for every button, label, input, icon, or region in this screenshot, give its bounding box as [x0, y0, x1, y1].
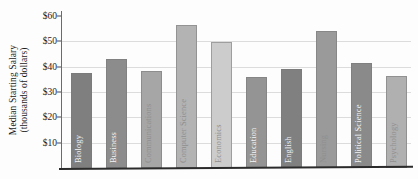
- bar-category-label: Political Science: [354, 104, 363, 163]
- bar-chart-figure: Median Starting Salary (thousands of dol…: [0, 0, 418, 179]
- y-axis-tick-label: $20: [31, 112, 57, 122]
- bar-category-label: Biology: [74, 135, 83, 163]
- bar-category-label: Computer Science: [179, 99, 188, 163]
- y-axis-tick-label: $10: [31, 138, 57, 148]
- y-axis-title: Median Starting Salary (thousands of dol…: [0, 0, 34, 179]
- bar: Nursing: [316, 31, 337, 169]
- bar-category-label: Nursing: [319, 135, 328, 163]
- bar-category-label: Education: [249, 128, 258, 163]
- bar-category-label: Communications: [144, 104, 153, 163]
- bar: Computer Science: [176, 25, 197, 168]
- bar: Communications: [141, 71, 162, 168]
- bar-category-label: Economics: [214, 124, 223, 163]
- y-axis-tick-labels: $60$50$40$30$20$10: [31, 0, 57, 179]
- bars-layer: BiologyBusinessCommunicationsComputer Sc…: [61, 11, 411, 169]
- y-axis-tick-label: $50: [31, 36, 57, 46]
- bar-category-label: Psychology: [389, 122, 398, 163]
- bar: Political Science: [351, 63, 372, 168]
- bar: English: [281, 69, 302, 168]
- bar: Education: [246, 77, 267, 168]
- bar: Economics: [211, 42, 232, 168]
- bar: Business: [106, 59, 127, 168]
- bar: Psychology: [386, 76, 407, 168]
- bar-category-label: English: [284, 136, 293, 163]
- plot-area: BiologyBusinessCommunicationsComputer Sc…: [61, 11, 411, 169]
- y-axis-tick-label: $30: [31, 87, 57, 97]
- y-axis-title-line-1: Median Starting Salary: [8, 44, 18, 134]
- y-axis-title-line-2: (thousands of dollars): [19, 47, 29, 132]
- bar-category-label: Business: [109, 132, 118, 163]
- y-axis-tick-label: $60: [31, 11, 57, 21]
- bar: Biology: [71, 73, 92, 168]
- chart-title-remnant: [148, 0, 268, 4]
- y-axis-tick-label: $40: [31, 62, 57, 72]
